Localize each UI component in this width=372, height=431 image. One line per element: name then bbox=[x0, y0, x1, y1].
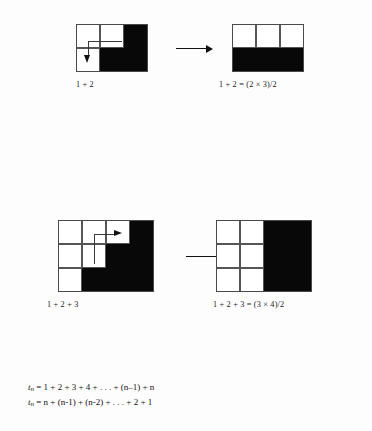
row-1-right-caption: 1 + 2 = (2 × 3)/2 bbox=[219, 80, 277, 89]
black-block bbox=[232, 48, 304, 72]
black-block bbox=[100, 48, 148, 72]
formula-body: = n + (n-1) + (n-2) + . . . + 2 + 1 bbox=[34, 397, 152, 407]
summary-formulas: tn = 1 + 2 + 3 + 4 + . . . + (n–1) + n t… bbox=[28, 381, 154, 411]
row-1-staircase-grid bbox=[76, 24, 148, 72]
arrow-right-icon bbox=[176, 44, 214, 53]
diagram-row-1: 1 + 2 1 + 2 = (2 × 3)/2 bbox=[0, 12, 372, 92]
formula-line-1: tn = 1 + 2 + 3 + 4 + . . . + (n–1) + n bbox=[28, 381, 154, 396]
diagram-row-2: 1 + 2 + 3 1 + 2 + 3 = (3 × 4)/2 bbox=[0, 110, 372, 215]
grid-cell bbox=[100, 24, 124, 48]
grid-cell bbox=[232, 24, 256, 48]
row-1-left-caption: 1 + 2 bbox=[76, 80, 94, 89]
formula-body: = 1 + 2 + 3 + 4 + . . . + (n–1) + n bbox=[34, 382, 154, 392]
grid-cell bbox=[280, 24, 304, 48]
grid-cell bbox=[256, 24, 280, 48]
formula-line-2: tn = n + (n-1) + (n-2) + . . . + 2 + 1 bbox=[28, 396, 154, 411]
diagram-row-3: 1 + 2 + 3 + 4 1 + 2 + 3 + bbox=[0, 238, 372, 373]
triangular-number-figure: 1 + 2 1 + 2 = (2 × 3)/2 bbox=[0, 0, 372, 431]
black-block bbox=[124, 24, 148, 48]
row-1-rectangle-grid bbox=[232, 24, 304, 72]
